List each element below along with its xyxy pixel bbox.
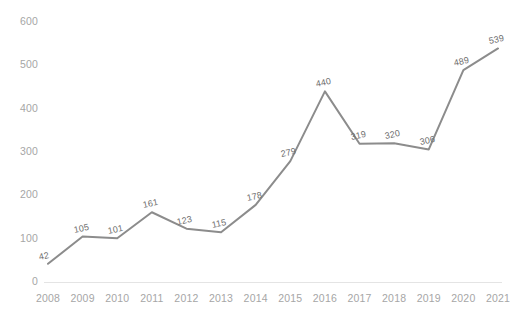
x-axis-tick-2021: 2021 [476, 292, 514, 304]
data-label-2008: 42 [38, 250, 50, 262]
